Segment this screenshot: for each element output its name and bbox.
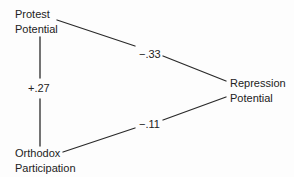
edge-protest-repression-segment-2	[163, 56, 226, 81]
node-repression-potential: Repression Potential	[230, 76, 286, 105]
coefficient-protest-repression: −.33	[139, 47, 161, 62]
node-label-line: Participation	[15, 161, 76, 176]
node-label-line: Potential	[15, 22, 58, 37]
node-label-line: Protest	[15, 7, 58, 22]
edge-orthodox-repression-segment-2	[163, 97, 226, 120]
node-label-line: Orthodox	[15, 146, 76, 161]
path-diagram: Protest Potential Repression Potential O…	[0, 0, 294, 177]
node-label-line: Repression	[230, 76, 286, 91]
coefficient-orthodox-repression: −.11	[139, 117, 160, 132]
edge-protest-repression-segment-1	[57, 20, 135, 46]
coefficient-protest-orthodox: +.27	[28, 81, 50, 96]
node-protest-potential: Protest Potential	[15, 7, 58, 36]
node-label-line: Potential	[230, 91, 286, 106]
node-orthodox-participation: Orthodox Participation	[15, 146, 76, 175]
